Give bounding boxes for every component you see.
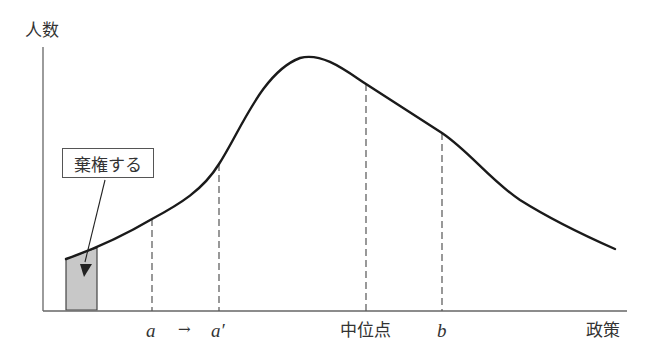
shift-arrow-icon: → [178,322,191,337]
y-axis-label: 人数 [25,22,59,39]
policy-distribution-diagram [0,0,656,362]
marker-label-a: a [146,321,156,340]
marker-label-median: 中位点 [340,322,391,339]
marker-label-a-prime: a′ [211,321,225,340]
abstain-callout-box: 棄権する [62,148,154,178]
x-axis-label: 政策 [586,322,620,339]
marker-label-b: b [437,321,447,340]
abstain-callout-label: 棄権する [74,151,142,176]
